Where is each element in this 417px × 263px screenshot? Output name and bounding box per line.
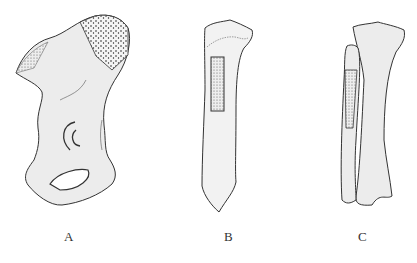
tibia-fibula-c: [341, 22, 404, 205]
tibia-bone-b: [202, 20, 253, 212]
figure-canvas: [0, 0, 417, 263]
panel-label-a: A: [64, 229, 73, 245]
graft-region-b: [211, 57, 224, 111]
pelvis-bone-a: [16, 15, 130, 205]
panel-label-b: B: [224, 229, 233, 245]
panel-label-c: C: [358, 229, 367, 245]
